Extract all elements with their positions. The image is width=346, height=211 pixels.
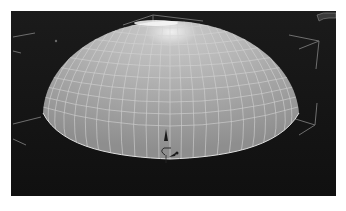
dome-highlight [134,20,178,26]
pivot-point-icon [55,40,57,42]
viewport-canvas[interactable] [11,11,336,196]
3d-viewport[interactable] [11,11,336,196]
